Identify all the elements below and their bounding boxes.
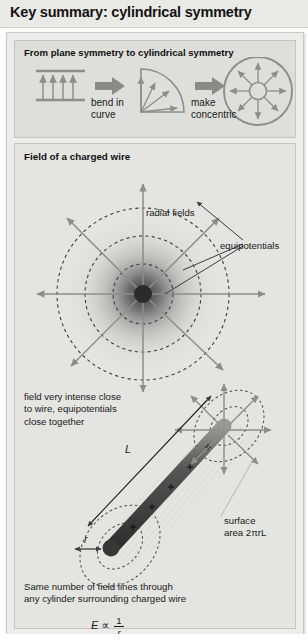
intense-field-note: field very intense close to wire, equipo… [24,391,154,428]
symmetry-sequence-diagram [15,57,295,135]
surface-area-label: surface area 2πrL [224,515,266,540]
panel-plane-to-cylindrical: From plane symmetry to cylindrical symme… [14,40,296,138]
bend-in-curve-label: bend in curve [91,97,124,120]
intense-note-line1: field very intense close [24,391,121,402]
wire-core-dot [134,285,152,303]
flux-note-line2: any cylinder surrounding charged wire [24,593,186,604]
bottom-strip [0,634,308,640]
field-formula: E ∝ 1 r [91,616,124,636]
plane-field-icon [36,71,85,100]
formula-fraction: 1 r [114,616,123,636]
intense-note-line3: close together [24,416,84,427]
make-line1: make [191,97,215,108]
make-concentric-label: make concentric [191,97,237,120]
bend-line2: curve [91,109,115,120]
summary-page: Key summary: cylindrical symmetry From p… [0,0,308,640]
summary-card: From plane symmetry to cylindrical symme… [6,32,304,636]
formula-relation: ∝ [101,619,109,631]
length-symbol-label: L [125,443,131,455]
surface-line1: surface [224,515,255,526]
formula-numerator: 1 [114,616,123,627]
flux-note-line1: Same number of field lines through [24,581,173,592]
equipotentials-label: equipotentials [220,240,279,252]
bend-arrow-icon [95,77,125,95]
title-bar: Key summary: cylindrical symmetry [0,0,308,28]
surface-line2: area 2πrL [224,527,266,538]
wedge-field-icon [141,69,184,112]
intense-note-line2: to wire, equipotentials [24,403,117,414]
make-line2: concentric [191,109,237,120]
concentric-arrow-icon [195,77,225,95]
radius-symbol-label: r [84,533,88,545]
panel-field-of-charged-wire: Field of a charged wire [14,143,296,629]
formula-lhs: E [91,619,98,631]
flux-conservation-note: Same number of field lines through any c… [24,581,244,606]
bend-line1: bend in [91,97,124,108]
page-title: Key summary: cylindrical symmetry [10,4,252,20]
radial-fields-label: radial fields [146,207,195,219]
